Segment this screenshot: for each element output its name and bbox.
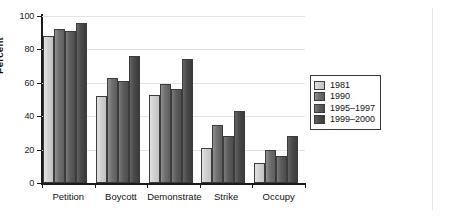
bar-chart: Percent 020406080100 PetitionBoycottDemo… (0, 0, 456, 218)
y-tick-mark (37, 49, 41, 50)
bar (254, 163, 265, 183)
plot-area (42, 16, 305, 183)
bar-group (201, 16, 245, 183)
bar (107, 78, 118, 183)
legend-label: 1990 (330, 92, 350, 101)
bar (118, 81, 129, 183)
bar-group (149, 16, 193, 183)
bar (223, 136, 234, 183)
y-tick-mark (37, 183, 41, 184)
y-tick-mark (37, 150, 41, 151)
legend-swatch-icon (314, 81, 325, 90)
bar (171, 89, 182, 183)
bar-group (96, 16, 140, 183)
legend-label: 1981 (330, 81, 350, 90)
legend: 198119901995–19971999–2000 (310, 75, 381, 130)
x-tick-mark (305, 183, 306, 188)
x-category-label: Demonstrate (147, 191, 200, 202)
y-tick-label: 20 (8, 146, 34, 155)
bar-group (43, 16, 87, 183)
legend-swatch-icon (314, 104, 325, 113)
bar (96, 96, 107, 183)
y-tick-label: 40 (8, 112, 34, 121)
y-tick-mark (37, 116, 41, 117)
bar (65, 31, 76, 183)
page-divider-rule (432, 8, 433, 210)
bar (129, 56, 140, 183)
bar (43, 36, 54, 183)
y-axis-title: Percent (0, 37, 5, 74)
legend-item: 1981 (314, 80, 375, 91)
y-tick-mark (37, 83, 41, 84)
bar (149, 95, 160, 184)
bar (287, 136, 298, 183)
legend-swatch-icon (314, 92, 325, 101)
bar (265, 150, 276, 183)
bar (201, 148, 212, 183)
legend-item: 1995–1997 (314, 103, 375, 114)
x-category-label: Boycott (95, 191, 148, 202)
x-tick-mark (252, 183, 253, 188)
bar (182, 59, 193, 183)
y-tick-label: 0 (8, 179, 34, 188)
y-tick-label: 60 (8, 79, 34, 88)
legend-item: 1999–2000 (314, 114, 375, 125)
y-tick-label: 100 (8, 12, 34, 21)
legend-item: 1990 (314, 91, 375, 102)
bar (54, 29, 65, 183)
bar (212, 125, 223, 183)
x-category-label: Petition (42, 191, 95, 202)
x-axis-line (41, 183, 306, 185)
legend-label: 1999–2000 (330, 115, 375, 124)
bar (234, 111, 245, 183)
y-tick-label: 80 (8, 45, 34, 54)
bar (160, 84, 171, 183)
x-tick-mark (200, 183, 201, 188)
x-tick-mark (95, 183, 96, 188)
y-tick-mark (37, 16, 41, 17)
bar (276, 156, 287, 183)
x-tick-mark (147, 183, 148, 188)
x-category-label: Occupy (252, 191, 305, 202)
legend-swatch-icon (314, 115, 325, 124)
bar (76, 23, 87, 183)
bar-group (254, 16, 298, 183)
x-tick-mark (42, 183, 43, 188)
legend-label: 1995–1997 (330, 104, 375, 113)
x-category-label: Strike (200, 191, 253, 202)
